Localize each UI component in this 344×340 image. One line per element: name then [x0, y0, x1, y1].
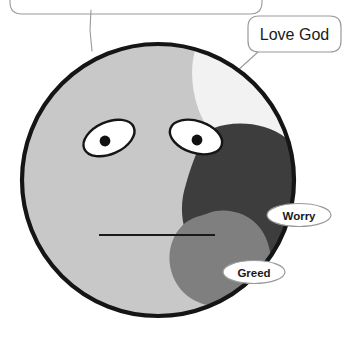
greed-callout-label: Greed — [237, 267, 270, 279]
top-callout-body — [10, 0, 262, 14]
region-greed — [170, 210, 271, 306]
top-cropped-callout[interactable] — [10, 0, 262, 14]
worry-callout[interactable]: Worry — [267, 204, 331, 227]
left-eye-pupil — [100, 136, 111, 147]
right-eye-pupil — [192, 135, 203, 146]
greed-callout[interactable]: Greed — [223, 261, 285, 284]
top-callout-leader-line — [90, 10, 92, 51]
worry-callout-label: Worry — [282, 210, 316, 222]
love-god-callout[interactable]: Love God — [248, 16, 341, 52]
illustration-canvas: Love God Worry Greed — [0, 0, 344, 340]
love-god-callout-label: Love God — [260, 26, 329, 43]
face-diagram: Love God Worry Greed — [0, 0, 344, 340]
